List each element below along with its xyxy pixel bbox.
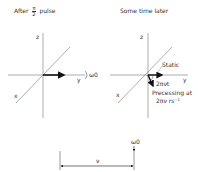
left-title-pre: After [14,7,28,14]
precessing-label-line2: 2πν rs⁻¹ [156,98,180,104]
bottom-omega-label: ω0 [131,139,140,145]
precessing-label-line1: Precessing at [152,90,192,96]
left-title: After π 2 pulse [14,6,56,17]
static-label: Static [162,62,179,68]
left-title-frac-den: 2 [32,12,35,17]
left-axis-x-label: x [14,93,18,99]
left-omega-arc [85,71,87,79]
left-axis-y-label: y [77,77,81,83]
right-title: Some time later [120,8,168,14]
angle-arc [151,75,153,80]
angle-label: 2πνt [156,81,169,87]
left-title-post: pulse [39,7,55,14]
left-axis-z-label: z [36,34,39,40]
right-axis-x-label: x [116,92,120,98]
right-axis-z-label: z [140,34,143,40]
left-omega-label: ω0 [89,72,98,78]
right-axis-y-label: y [183,77,187,83]
precessing-arrow [148,75,153,86]
nu-label: ν [96,158,99,164]
